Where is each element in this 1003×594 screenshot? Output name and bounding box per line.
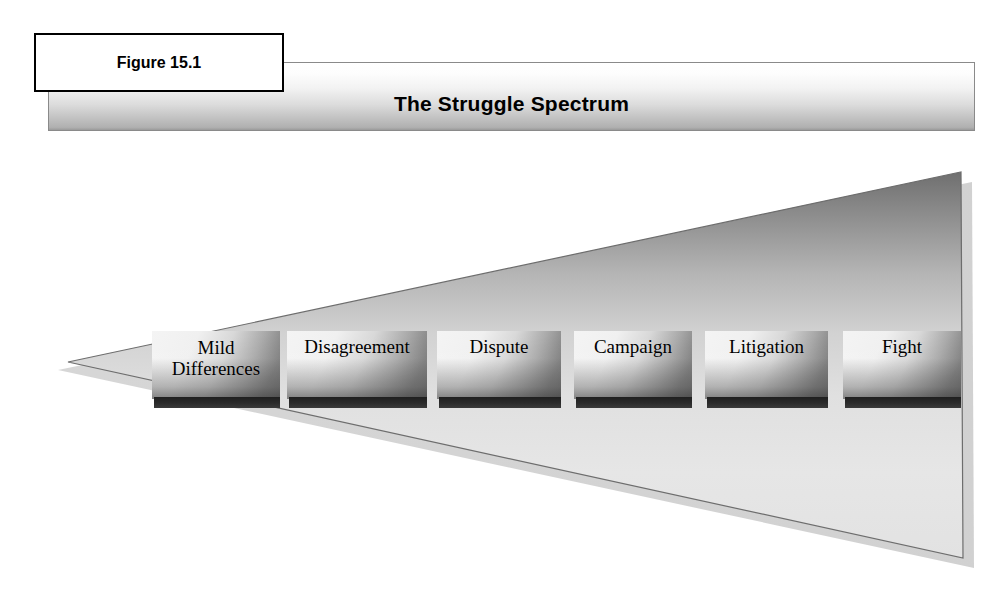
stage-box-litigation[interactable]: Litigation — [705, 331, 828, 409]
stage-box-label: Disagreement — [304, 337, 410, 358]
stage-box-face: Disagreement — [287, 331, 427, 399]
stage-box-label: Mild Differences — [172, 337, 260, 380]
stage-box-base-bar — [576, 397, 692, 408]
stage-box-face: Dispute — [437, 331, 561, 399]
stage-box-label: Fight — [882, 337, 922, 358]
stage-box-face: Mild Differences — [152, 331, 280, 399]
stage-box-face: Campaign — [574, 331, 692, 399]
stage-box-campaign[interactable]: Campaign — [574, 331, 692, 409]
stage-box-base-bar — [439, 397, 561, 408]
stage-box-label: Campaign — [594, 337, 672, 358]
stage-box-base-bar — [707, 397, 828, 408]
stage-box-disagreement[interactable]: Disagreement — [287, 331, 427, 409]
stage-box-label: Dispute — [469, 337, 528, 358]
figure-label-text: Figure 15.1 — [117, 54, 201, 72]
stage-box-label: Litigation — [729, 337, 804, 358]
stage-box-face: Fight — [843, 331, 961, 399]
stage-box-mild-differences[interactable]: Mild Differences — [152, 331, 280, 409]
figure-label-box: Figure 15.1 — [34, 33, 284, 92]
stage-box-face: Litigation — [705, 331, 828, 399]
stage-box-base-bar — [289, 397, 427, 408]
stage-box-base-bar — [154, 397, 280, 408]
stage-box-base-bar — [845, 397, 961, 408]
stage-box-fight[interactable]: Fight — [843, 331, 961, 409]
diagram-canvas: The Struggle Spectrum Figure 15.1 Mild D… — [0, 0, 1003, 594]
stage-box-dispute[interactable]: Dispute — [437, 331, 561, 409]
